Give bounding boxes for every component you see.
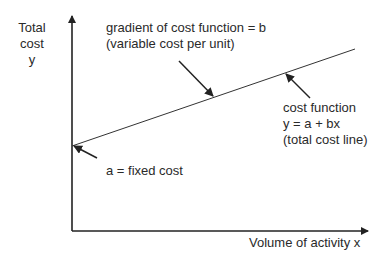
gradient-annotation: gradient of cost function = b (variable … [106, 20, 266, 52]
gradient-annotation-line-2: (variable cost per unit) [106, 36, 266, 52]
y-axis-label: Total cost y [14, 20, 50, 68]
cost-function-annotation: cost function y = a + bx (total cost lin… [283, 100, 368, 148]
cost-function-pointer-arrow [286, 74, 310, 98]
gradient-pointer-arrow [179, 61, 213, 96]
fixed-cost-pointer-arrow [74, 146, 97, 158]
fixed-cost-annotation: a = fixed cost [106, 163, 183, 179]
cost-function-annotation-line-2: y = a + bx [283, 116, 368, 132]
cost-function-annotation-line-1: cost function [283, 100, 368, 116]
y-axis-label-line-3: y [14, 52, 50, 68]
y-axis-label-line-1: Total [14, 20, 50, 36]
x-axis-label: Volume of activity x [249, 235, 360, 251]
gradient-annotation-line-1: gradient of cost function = b [106, 20, 266, 36]
y-axis-label-line-2: cost [14, 36, 50, 52]
cost-function-annotation-line-3: (total cost line) [283, 132, 368, 148]
